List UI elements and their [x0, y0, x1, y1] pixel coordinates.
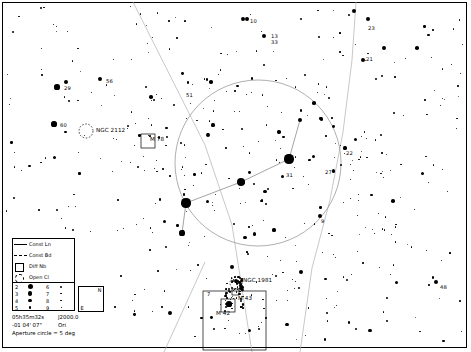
magnitude-dot-icon: [54, 293, 68, 295]
star: [80, 71, 81, 72]
star: [249, 152, 250, 153]
diffuse-nebula-icon: [13, 261, 29, 272]
magnitude-row: 5: [13, 304, 44, 311]
star: [189, 242, 190, 243]
star: [319, 206, 321, 208]
star: [362, 262, 363, 263]
star: [154, 168, 155, 169]
star: [386, 297, 388, 299]
legend-item-open-cluster: Open Cl: [13, 272, 74, 283]
star: [287, 290, 288, 291]
star: [236, 297, 237, 298]
star: [434, 90, 435, 91]
star: [381, 152, 383, 154]
star: [456, 118, 457, 119]
compass-rose: N E: [78, 286, 104, 312]
star: [332, 125, 335, 128]
star: [295, 245, 296, 246]
star: [355, 328, 357, 330]
star: [214, 210, 215, 211]
star: [335, 143, 336, 144]
star: [236, 85, 238, 87]
star: [228, 178, 229, 179]
star: [133, 313, 135, 315]
star: [395, 226, 397, 228]
dso-label: M 78: [150, 137, 164, 143]
dso-label: M 42: [216, 311, 230, 317]
star: [359, 234, 360, 235]
star: [213, 110, 214, 111]
star: [307, 115, 308, 116]
star: [424, 99, 425, 100]
magnitude-row: 9: [44, 304, 75, 311]
star: [235, 288, 236, 289]
star: [168, 20, 169, 21]
star: [234, 276, 236, 278]
star-label: 60: [60, 123, 67, 128]
star: [147, 43, 148, 44]
star: [209, 80, 212, 83]
star: [261, 322, 262, 323]
magnitude-dot-icon: [23, 306, 37, 309]
star: [325, 135, 326, 136]
star: [339, 32, 340, 33]
star: [385, 216, 386, 217]
magnitude-value: 5: [13, 305, 23, 311]
star: [166, 136, 168, 138]
star: [134, 294, 135, 295]
star: [256, 50, 257, 51]
star: [415, 46, 419, 50]
star: [28, 165, 30, 167]
star: [200, 317, 202, 319]
star-label: 56: [106, 79, 113, 84]
star: [246, 251, 247, 252]
star: [427, 34, 429, 36]
star-chart: NGC 2112M 78NGC 1981M 42M 43102313332129…: [0, 0, 471, 352]
star: [395, 241, 396, 242]
magnitude-value: 9: [44, 305, 54, 311]
star: [261, 31, 262, 32]
star: [232, 280, 234, 282]
star: [140, 13, 141, 14]
compass-east-label: E: [81, 305, 84, 311]
star: [394, 76, 395, 77]
star: [381, 75, 383, 77]
const-boundary-icon: [13, 250, 29, 261]
magnitude-dot-icon: [54, 286, 68, 288]
star: [368, 329, 372, 333]
star: [382, 228, 383, 229]
legend-label: Const Ln: [29, 242, 51, 247]
star-label: 31: [286, 173, 293, 178]
star: [136, 224, 137, 225]
legend-label: Diff Nb: [29, 264, 46, 269]
star: [275, 140, 276, 141]
magnitude-dot-icon: [23, 299, 37, 302]
star: [54, 84, 59, 89]
star: [370, 194, 372, 196]
star: [366, 157, 368, 159]
star: [98, 77, 102, 81]
star: [253, 232, 256, 235]
star: [192, 84, 193, 85]
star: [226, 297, 228, 299]
star: [144, 170, 145, 171]
star: [333, 37, 334, 38]
star: [176, 37, 178, 39]
star: [241, 289, 243, 291]
star: [211, 123, 214, 126]
star: [282, 136, 284, 138]
star: [328, 233, 329, 234]
magnitude-column-right: 6789: [44, 283, 75, 311]
magnitude-dot-icon: [54, 307, 68, 308]
star: [117, 199, 119, 201]
star: [391, 199, 395, 203]
star: [197, 264, 199, 266]
star: [78, 172, 80, 174]
star: [400, 197, 401, 198]
star: [426, 114, 427, 115]
legend-item-const-line: Const Ln: [13, 239, 74, 250]
star: [138, 134, 141, 137]
star-label: 27: [325, 170, 332, 175]
star: [276, 300, 277, 301]
star: [260, 200, 262, 202]
